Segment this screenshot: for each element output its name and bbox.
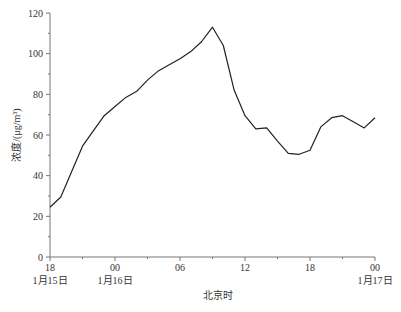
x-tick-date: 1月17日	[358, 275, 393, 286]
y-tick-label: 80	[33, 89, 43, 100]
y-tick-label: 0	[38, 252, 43, 263]
y-tick-label: 60	[33, 130, 43, 141]
y-tick-label: 20	[33, 211, 43, 222]
x-tick-label: 18	[45, 262, 55, 273]
x-tick-date: 1月15日	[33, 275, 68, 286]
x-tick-label: 00	[110, 262, 120, 273]
x-axis: 181月15日001月16日061218001月17日	[33, 257, 393, 286]
x-axis-title: 北京时	[203, 289, 233, 301]
concentration-line	[50, 27, 375, 207]
x-tick-label: 06	[175, 262, 185, 273]
x-tick-label: 00	[370, 262, 380, 273]
x-tick-label: 18	[305, 262, 315, 273]
y-axis-title: 浓度/(μg/m³)	[10, 108, 23, 161]
y-tick-label: 100	[28, 48, 43, 59]
y-tick-label: 40	[33, 170, 43, 181]
y-axis: 020406080100120	[28, 8, 50, 263]
x-tick-date: 1月16日	[98, 275, 133, 286]
y-tick-label: 120	[28, 8, 43, 19]
x-tick-label: 12	[240, 262, 250, 273]
line-chart: 020406080100120 181月15日001月16日061218001月…	[0, 0, 401, 312]
